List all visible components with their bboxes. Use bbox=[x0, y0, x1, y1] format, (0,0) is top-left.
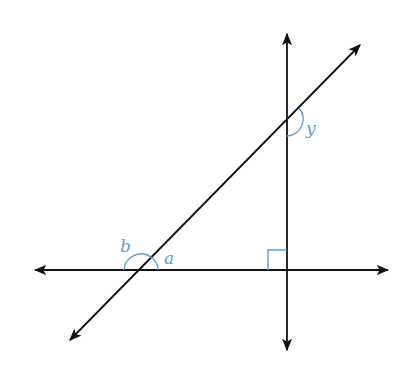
angle-label-b: b bbox=[120, 236, 131, 256]
angle-label-a: a bbox=[164, 248, 174, 268]
transversal-line bbox=[70, 45, 360, 340]
geometry-diagram: b a y bbox=[0, 0, 416, 378]
angle-a-arc bbox=[152, 258, 158, 270]
angle-label-y: y bbox=[305, 118, 316, 138]
right-angle-marker bbox=[268, 250, 287, 270]
